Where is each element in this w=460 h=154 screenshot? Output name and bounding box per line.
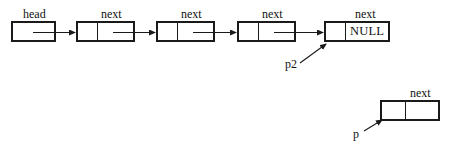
node-3-data-cell	[239, 23, 259, 40]
node-2	[156, 21, 215, 42]
node-4: NULL	[324, 21, 390, 42]
node-3	[237, 21, 296, 42]
node-1-data-cell	[78, 23, 98, 40]
head-box	[11, 21, 56, 42]
node-2-data-cell	[158, 23, 178, 40]
node-1-next-cell	[98, 23, 133, 40]
node-detached-next-cell	[406, 102, 438, 119]
node-4-data-cell	[326, 23, 346, 40]
pointer-p-label: p	[353, 128, 359, 140]
arrow-overlay	[0, 0, 460, 154]
node-2-next-label: next	[181, 8, 202, 20]
node-detached	[380, 100, 440, 121]
head-label: head	[23, 8, 46, 20]
node-3-next-cell	[259, 23, 294, 40]
node-3-next-label: next	[262, 8, 283, 20]
arrow-p2-to-node-4	[300, 44, 326, 63]
node-4-next-cell: NULL	[346, 23, 388, 40]
node-1	[76, 21, 135, 42]
node-detached-data-cell	[382, 102, 406, 119]
node-4-next-label: next	[355, 8, 376, 20]
node-2-next-cell	[178, 23, 213, 40]
node-1-next-label: next	[101, 8, 122, 20]
node-detached-next-label: next	[410, 87, 431, 99]
head-box-value	[13, 23, 54, 40]
arrow-p-to-node-detached	[364, 120, 382, 131]
pointer-p2-label: p2	[285, 58, 297, 70]
linked-list-diagram: head next next next next NULL p2 next p	[0, 0, 460, 154]
